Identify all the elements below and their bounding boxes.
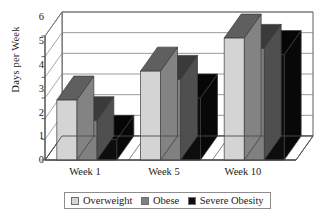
legend-label-overweight: Overweight [83,195,133,206]
plot-area [0,0,330,218]
legend-item-obese: Obese [141,195,179,206]
legend-swatch-severe-obesity [188,197,196,205]
bar-chart-figure: Days per Week 6 5 4 3 2 1 0 Week 1 Week … [0,0,330,218]
legend-label-obese: Obese [153,195,179,206]
legend-swatch-overweight [71,197,79,205]
legend-item-overweight: Overweight [71,195,132,206]
legend-swatch-obese [141,197,149,205]
bar-overweight-week-10 [224,14,261,160]
legend-item-severe-obesity: Severe Obesity [188,195,263,206]
bar-overweight-week-5 [141,47,178,160]
legend-label-severe-obesity: Severe Obesity [200,195,264,206]
chart-legend: Overweight Obese Severe Obesity [64,192,271,209]
